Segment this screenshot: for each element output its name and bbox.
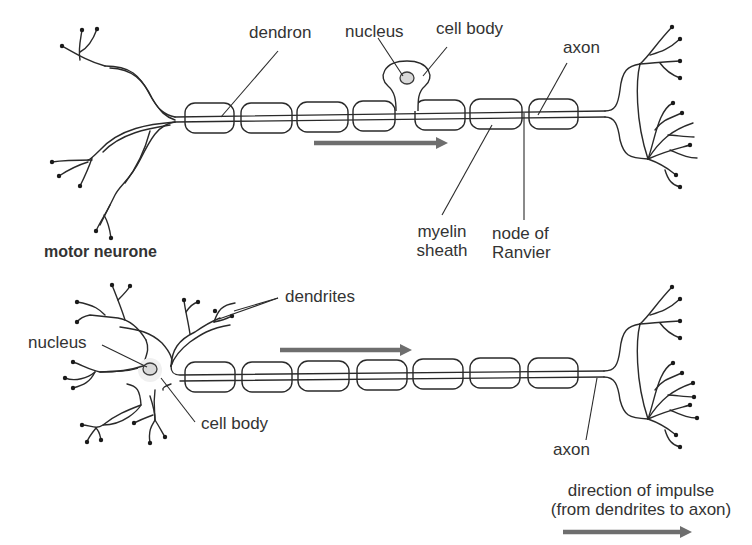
diagram-drawing <box>0 0 752 545</box>
label-sensory-cell-body: cell body <box>201 414 268 433</box>
neurone-diagram: dendron nucleus cell body axon motor neu… <box>0 0 752 545</box>
label-node-line2: Ranvier <box>492 243 551 262</box>
legend-line1: direction of impulse <box>530 481 752 500</box>
label-sensory-nucleus: nucleus <box>28 333 87 352</box>
legend-text: direction of impulse (from dendrites to … <box>530 481 752 519</box>
figure-title: motor neurone <box>44 243 157 261</box>
sensory-neurone <box>63 283 699 449</box>
legend-line2: (from dendrites to axon) <box>530 500 752 519</box>
label-motor-axon: axon <box>563 38 600 57</box>
sensory-terminal-tips <box>670 285 699 449</box>
label-sensory-axon: axon <box>553 440 590 459</box>
motor-impulse-arrow-icon <box>314 137 448 149</box>
label-myelin-sheath: myelin sheath <box>412 222 472 260</box>
label-dendron: dendron <box>249 23 311 42</box>
sensory-nucleus-shape <box>143 363 157 375</box>
legend-arrow-icon <box>563 526 692 538</box>
label-motor-nucleus: nucleus <box>345 22 404 41</box>
motor-dendrite-tips <box>50 27 113 240</box>
label-myelin-line1: myelin <box>412 222 472 241</box>
motor-axon-terminals <box>605 27 697 187</box>
label-node-line1: node of <box>492 224 551 243</box>
label-motor-cell-body: cell body <box>436 19 503 38</box>
motor-dendrite-branches <box>52 29 175 238</box>
motor-terminal-tips <box>670 25 692 189</box>
motor-neurone <box>50 25 697 240</box>
label-dendrites: dendrites <box>285 287 355 306</box>
sensory-axon-terminals <box>604 287 697 447</box>
label-myelin-line2: sheath <box>412 241 472 260</box>
sensory-impulse-arrow-icon <box>280 344 412 356</box>
label-node-of-ranvier: node of Ranvier <box>492 224 551 262</box>
